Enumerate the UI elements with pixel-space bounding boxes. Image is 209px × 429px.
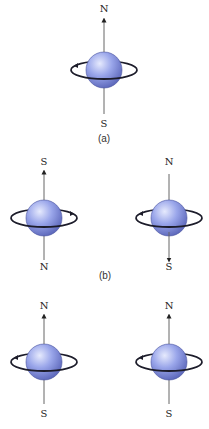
spin-c2 — [136, 316, 202, 404]
pole-label-top: N — [165, 300, 174, 311]
pole-label-bottom: S — [41, 408, 48, 419]
sphere — [86, 52, 122, 88]
panel-caption-b: (b) — [99, 270, 111, 281]
panel-a: N S (a) — [71, 3, 137, 144]
pole-label-bottom: S — [101, 118, 108, 129]
panel-c: N S N S — [11, 300, 202, 419]
sphere — [151, 344, 187, 380]
sphere — [151, 200, 187, 236]
spin-diagram: N S (a) S N N S (b) — [0, 0, 209, 429]
spin-c1 — [11, 316, 77, 404]
panel-b: S N N S (b) — [11, 156, 202, 281]
pole-label-bottom: S — [166, 408, 173, 419]
pole-label-top: N — [100, 3, 109, 14]
spin-b2 — [136, 174, 202, 260]
pole-label-top: N — [165, 156, 174, 167]
pole-label-bottom: N — [40, 261, 49, 272]
sphere — [26, 344, 62, 380]
pole-label-top: S — [41, 156, 48, 167]
spin-a1 — [71, 20, 137, 114]
spin-b1 — [11, 172, 77, 260]
pole-label-top: N — [40, 300, 49, 311]
sphere — [26, 200, 62, 236]
pole-label-bottom: S — [166, 261, 173, 272]
panel-caption-a: (a) — [98, 133, 110, 144]
